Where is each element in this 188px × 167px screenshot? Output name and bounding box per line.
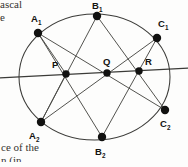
- vertex-b1-dot: [93, 12, 101, 20]
- pascal-figure: A 1 B 1 C 1 C 2 B 2 A 2 P Q R ascal e ce…: [0, 0, 188, 167]
- label-q: Q: [103, 56, 110, 67]
- point-q-dot: [103, 69, 110, 76]
- chord-group: [38, 16, 165, 137]
- chord-c1-a2: [41, 38, 157, 122]
- vertex-a1-dot: [34, 29, 42, 37]
- caption-top: ascal e: [0, 0, 22, 23]
- label-r: R: [145, 56, 152, 67]
- caption-top-line2: e: [0, 12, 22, 24]
- label-b2: B: [95, 146, 102, 157]
- pascal-line: [0, 68, 188, 78]
- caption-bottom-line2: n (in: [1, 155, 39, 162]
- label-c1: C: [158, 18, 165, 29]
- vertex-c2-dot: [161, 106, 169, 114]
- chord-a1-c2: [38, 33, 165, 110]
- vertex-c1-dot: [153, 34, 161, 42]
- caption-bottom: ce of the n (in: [1, 142, 39, 162]
- label-a1-subscript: 1: [38, 19, 42, 26]
- vertex-group: [34, 12, 169, 141]
- vertex-a2-dot: [37, 118, 45, 126]
- label-b2-subscript: 2: [102, 152, 106, 159]
- label-c2-subscript: 2: [167, 124, 171, 131]
- point-r-dot: [135, 67, 142, 74]
- vertex-b2-dot: [98, 133, 106, 141]
- caption-bottom-line1: ce of the: [1, 141, 39, 153]
- label-c2: C: [160, 118, 167, 129]
- label-a2: A: [29, 130, 36, 141]
- chord-a2-p: [41, 74, 66, 122]
- point-p-dot: [62, 70, 69, 77]
- label-a1: A: [31, 13, 38, 24]
- label-p: P: [52, 59, 59, 70]
- caption-top-line1: ascal: [0, 0, 22, 10]
- label-b1: B: [92, 0, 99, 11]
- label-b1-subscript: 1: [99, 6, 103, 13]
- label-c1-subscript: 1: [165, 24, 169, 31]
